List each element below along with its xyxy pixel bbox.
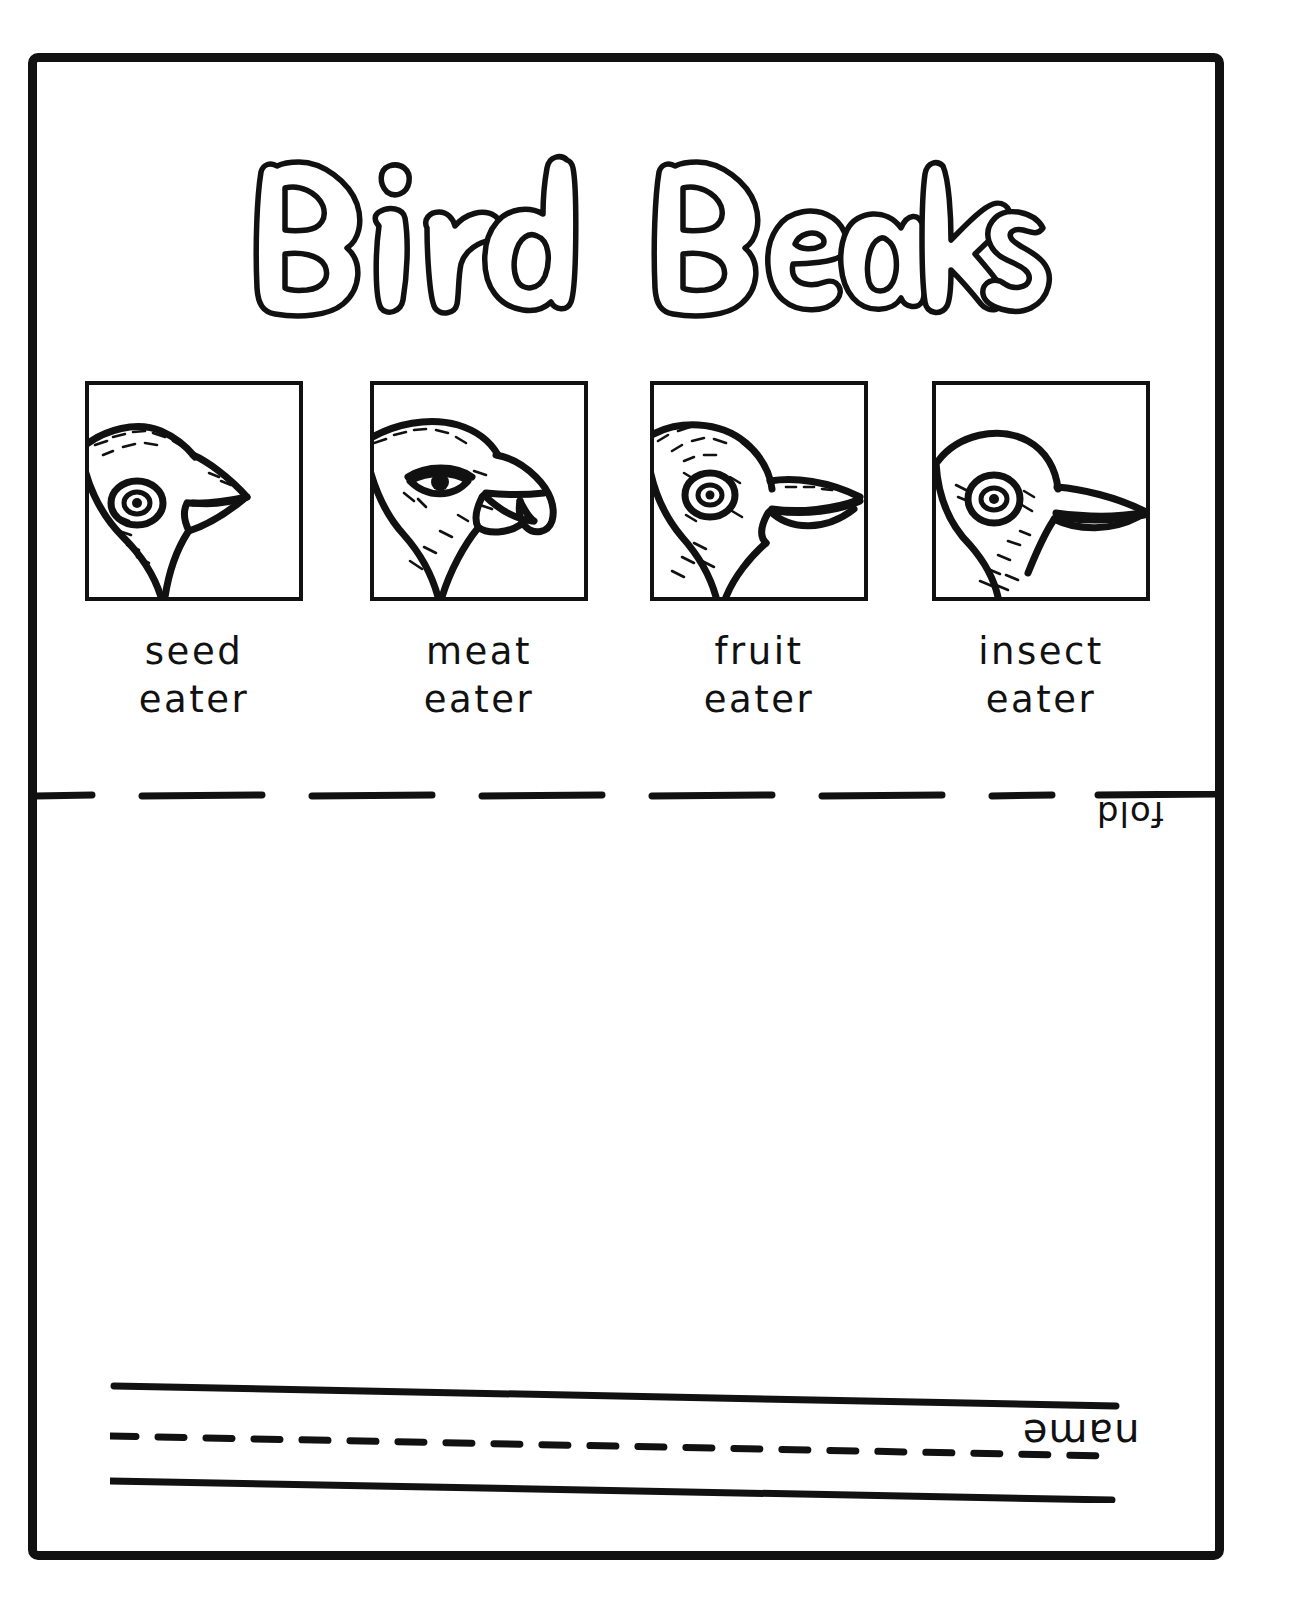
beak-label-line2: eater	[639, 676, 879, 724]
writing-line-bottom	[110, 1481, 1112, 1500]
writing-line-top	[114, 1386, 1116, 1406]
beak-label-row: seed eater meat eater fruit eater insect…	[85, 628, 1162, 738]
beak-label-line1: insect	[921, 628, 1161, 676]
worksheet-page: Bird Beaks	[0, 0, 1293, 1598]
beak-label-insect-eater: insect eater	[921, 628, 1161, 724]
beak-label-line1: seed	[74, 628, 314, 676]
writing-line-middle-dashed	[110, 1436, 1110, 1456]
bird-head-fruit-eater-icon	[654, 385, 864, 597]
beak-label-seed-eater: seed eater	[74, 628, 314, 724]
name-label: name	[1022, 1412, 1139, 1456]
beak-label-line2: eater	[921, 676, 1161, 724]
writing-lines-icon	[110, 1378, 1120, 1503]
bird-panel-fruit-eater	[650, 381, 868, 601]
beak-label-line2: eater	[74, 676, 314, 724]
beak-label-line1: fruit	[639, 628, 879, 676]
beak-label-meat-eater: meat eater	[359, 628, 599, 724]
bird-panel-meat-eater	[370, 381, 588, 601]
beak-label-line2: eater	[359, 676, 599, 724]
bird-panel-seed-eater	[85, 381, 303, 601]
bird-head-seed-eater-icon	[89, 385, 299, 597]
bird-head-insect-eater-icon	[936, 385, 1146, 597]
name-writing-lines	[110, 1378, 1120, 1503]
bird-head-meat-eater-icon	[374, 385, 584, 597]
fold-dashed-line	[34, 791, 1218, 800]
fold-line-icon	[34, 791, 1218, 800]
bird-panel-row	[85, 381, 1162, 603]
student-drawing-area[interactable]	[40, 815, 1212, 1360]
beak-label-line1: meat	[359, 628, 599, 676]
bird-panel-insect-eater	[932, 381, 1150, 601]
beak-label-fruit-eater: fruit eater	[639, 628, 879, 724]
